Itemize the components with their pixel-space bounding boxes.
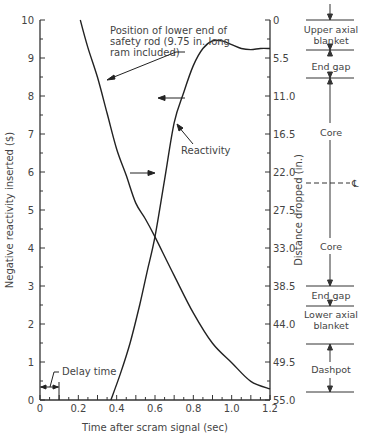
y2-tick-label: 33.0 — [273, 243, 295, 254]
y2-tick-label: 16.5 — [273, 129, 295, 140]
x-tick-label: 0 — [37, 403, 43, 414]
y2-tick-label: 49.5 — [273, 357, 295, 368]
annotation-rod-line3: ram included) — [110, 47, 180, 58]
y-tick-label: 7 — [28, 129, 34, 140]
curves — [80, 20, 270, 400]
y2-tick-label: 22.0 — [273, 167, 295, 178]
x-tick-label: 0.8 — [185, 403, 201, 414]
region-lower-axial-blanket-2: blanket — [313, 320, 349, 331]
y2-axis-label: Distance dropped (in.) — [293, 154, 304, 266]
y-tick-label: 2 — [28, 319, 34, 330]
region-upper-axial-blanket-1: Upper axial — [304, 24, 358, 35]
y2-tick-label: 38.5 — [273, 281, 295, 292]
annotation-reactivity-arrow — [177, 124, 193, 144]
reactivity-curve — [111, 40, 270, 400]
scram-chart: 00.20.40.60.81.01.201234567891005.511.01… — [0, 0, 371, 437]
x-axis-label: Time after scram signal (sec) — [81, 422, 228, 433]
y-tick-label: 4 — [28, 243, 34, 254]
annotation-reactivity: Reactivity — [181, 145, 231, 156]
y-tick-label: 6 — [28, 167, 34, 178]
x-tick-label: 1.0 — [224, 403, 240, 414]
centerline-symbol: ℄ — [351, 178, 359, 189]
region-end-gap-top: End gap — [312, 61, 351, 72]
region-dashpot: Dashpot — [311, 364, 351, 375]
y-tick-label: 3 — [28, 281, 34, 292]
ticks — [40, 20, 270, 400]
rod-position-curve — [80, 20, 270, 389]
y-tick-label: 8 — [28, 91, 34, 102]
y2-tick-label: 44.0 — [273, 319, 295, 330]
region-end-gap-bottom: End gap — [312, 290, 351, 301]
region-core-bottom: Core — [320, 241, 342, 252]
y2-tick-label: 27.5 — [273, 205, 295, 216]
region-upper-axial-blanket-2: blanket — [313, 35, 349, 46]
x-tick-label: 0.2 — [70, 403, 86, 414]
annotation-rod-line2: safety rod (9.75 in. long — [110, 36, 230, 47]
annotation-delay-time: Delay time — [62, 366, 116, 377]
delay-time-marker — [40, 372, 59, 400]
region-core-top: Core — [320, 127, 342, 138]
annotation-rod-line1: Position of lower end of — [110, 25, 228, 36]
y2-tick-label: 55.0 — [273, 395, 295, 406]
y-tick-label: 10 — [21, 15, 34, 26]
right-direction-arrow — [130, 171, 155, 176]
y2-tick-label: 0 — [273, 15, 279, 26]
region-lower-axial-blanket-1: Lower axial — [304, 309, 358, 320]
y-tick-label: 1 — [28, 357, 34, 368]
x-tick-label: 0.4 — [109, 403, 125, 414]
y-tick-label: 5 — [28, 205, 34, 216]
y-axis-label: Negative reactivity inserted ($) — [4, 132, 15, 289]
x-tick-label: 0.6 — [147, 403, 163, 414]
y2-tick-label: 11.0 — [273, 91, 295, 102]
y-tick-label: 0 — [28, 395, 34, 406]
y-tick-label: 9 — [28, 53, 34, 64]
y2-tick-label: 5.5 — [273, 53, 289, 64]
axes — [40, 20, 270, 400]
